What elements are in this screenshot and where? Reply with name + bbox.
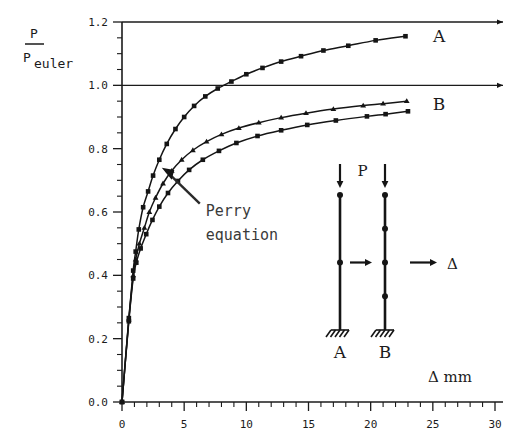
data-point-marker xyxy=(373,38,378,43)
data-point-marker xyxy=(146,209,152,214)
series-line-a xyxy=(122,36,405,402)
data-point-marker xyxy=(153,195,159,200)
data-point-marker xyxy=(229,79,234,84)
data-point-marker xyxy=(383,112,388,117)
data-point-marker xyxy=(234,141,239,146)
column-b-node xyxy=(382,226,388,232)
top-border-line-end-cap xyxy=(497,19,503,24)
data-point-marker xyxy=(321,48,326,53)
data-point-marker xyxy=(146,189,151,194)
y-axis-label-denominator-subscript: euler xyxy=(34,56,73,71)
y-tick-label: 1.2 xyxy=(88,16,108,29)
x-tick-label: 20 xyxy=(364,418,377,431)
column-a-base-hatch xyxy=(331,330,336,337)
y-axis-label-numerator: P xyxy=(30,26,38,41)
y-axis-label-denominator: P xyxy=(23,50,31,65)
data-point-marker xyxy=(173,127,178,132)
data-point-marker xyxy=(406,109,411,114)
data-point-marker xyxy=(217,149,222,154)
deflection-arrowhead-b xyxy=(430,259,437,266)
data-point-marker xyxy=(215,86,220,91)
x-tick-label: 30 xyxy=(488,418,501,431)
chart-figure: 0.00.20.40.60.81.01.2051015202530ABPPeul… xyxy=(0,0,522,444)
column-b-base-hatch xyxy=(371,330,376,337)
column-a-base-hatch xyxy=(335,330,340,337)
data-point-marker xyxy=(166,191,171,196)
x-tick-label: 25 xyxy=(426,418,439,431)
data-point-marker xyxy=(134,260,139,265)
x-tick-label: 10 xyxy=(240,418,253,431)
data-point-marker xyxy=(136,227,141,232)
y-tick-label: 0.2 xyxy=(88,333,108,346)
data-point-marker xyxy=(151,173,156,178)
data-point-marker xyxy=(120,400,125,405)
series-line-b xyxy=(122,111,408,402)
data-point-marker xyxy=(365,114,370,119)
data-point-marker xyxy=(255,134,260,139)
euler-buckling-chart: 0.00.20.40.60.81.01.2051015202530ABPPeul… xyxy=(0,0,522,444)
data-point-marker xyxy=(260,66,265,71)
x-tick-label: 15 xyxy=(302,418,315,431)
x-axis-label: Δ mm xyxy=(428,368,472,386)
column-b-base-hatch xyxy=(380,330,385,337)
data-point-marker xyxy=(192,104,197,109)
perry-annotation-line1: Perry xyxy=(206,202,251,220)
data-point-marker xyxy=(141,225,147,230)
y-tick-label: 0.6 xyxy=(88,206,108,219)
data-point-marker xyxy=(299,54,304,59)
data-point-marker xyxy=(403,34,408,39)
column-a-base-hatch xyxy=(344,330,349,337)
x-tick-label: 0 xyxy=(119,418,126,431)
data-point-marker xyxy=(150,218,155,223)
y-tick-label: 1.0 xyxy=(88,79,108,92)
column-b-node xyxy=(382,260,388,266)
data-point-marker xyxy=(138,246,143,251)
data-point-marker xyxy=(127,319,132,324)
inset-column-label-a: A xyxy=(333,342,347,362)
inset-column-label-b: B xyxy=(379,342,392,362)
data-point-marker xyxy=(244,72,249,77)
data-point-marker xyxy=(164,142,169,147)
data-point-marker xyxy=(203,94,208,99)
data-point-marker xyxy=(334,118,339,123)
column-b-base-hatch xyxy=(389,330,394,337)
data-point-marker xyxy=(141,205,146,210)
load-label-p: P xyxy=(357,162,367,180)
load-arrowhead-a xyxy=(337,181,344,188)
column-b-node xyxy=(382,293,388,299)
column-a-base-hatch xyxy=(340,330,345,337)
data-point-marker xyxy=(346,43,351,48)
load-arrowhead-b xyxy=(382,181,389,188)
data-point-marker xyxy=(157,157,162,162)
data-point-marker xyxy=(144,232,149,237)
column-b-base-hatch xyxy=(385,330,390,337)
column-a-base-hatch xyxy=(326,330,331,337)
curve-label-a: A xyxy=(432,26,446,46)
data-point-marker xyxy=(182,115,187,120)
data-point-marker xyxy=(305,123,310,128)
data-point-marker xyxy=(131,276,136,281)
data-point-marker xyxy=(187,168,192,173)
column-b-base-hatch xyxy=(376,330,381,337)
deflection-label-delta: Δ xyxy=(447,255,458,273)
data-point-marker xyxy=(157,204,162,209)
column-a-top-node xyxy=(337,192,343,198)
x-tick-label: 5 xyxy=(181,418,188,431)
column-a-mid-node xyxy=(337,260,343,266)
euler-unity-line-end-cap xyxy=(497,83,503,88)
curve-label-b: B xyxy=(433,94,446,114)
column-b-top-node xyxy=(382,192,388,198)
data-point-marker xyxy=(279,128,284,133)
y-tick-label: 0.8 xyxy=(88,143,108,156)
data-point-marker xyxy=(279,59,284,64)
deflection-arrowhead-a xyxy=(365,259,372,266)
y-tick-label: 0.4 xyxy=(88,269,108,282)
perry-annotation-line2: equation xyxy=(206,226,278,244)
data-point-marker xyxy=(201,157,206,162)
y-tick-label: 0.0 xyxy=(88,396,108,409)
